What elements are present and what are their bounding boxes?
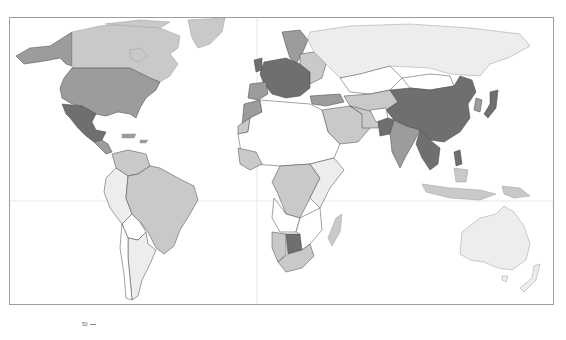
region-madagascar[interactable] (328, 214, 342, 246)
legend-tick (90, 324, 96, 325)
region-new-zealand[interactable] (520, 264, 540, 292)
region-papua[interactable] (502, 186, 530, 198)
map-legend: 50 (82, 321, 96, 327)
legend-label: 50 (82, 321, 88, 327)
region-uk[interactable] (254, 58, 262, 72)
region-indonesia[interactable] (422, 168, 496, 200)
region-tasmania (502, 276, 508, 282)
region-philippines[interactable] (454, 150, 462, 166)
region-russia[interactable] (308, 24, 530, 78)
region-iberia[interactable] (248, 82, 268, 100)
region-argentina[interactable] (128, 232, 156, 300)
region-alaska[interactable] (16, 32, 72, 66)
region-caribbean (122, 134, 148, 143)
region-turkey[interactable] (310, 94, 344, 106)
region-japan[interactable] (484, 90, 498, 118)
map-frame[interactable] (9, 17, 554, 305)
region-australia[interactable] (460, 206, 530, 270)
region-greenland[interactable] (188, 18, 225, 48)
region-central-america[interactable] (94, 140, 112, 154)
world-map[interactable] (10, 18, 553, 304)
region-korea[interactable] (474, 98, 482, 112)
